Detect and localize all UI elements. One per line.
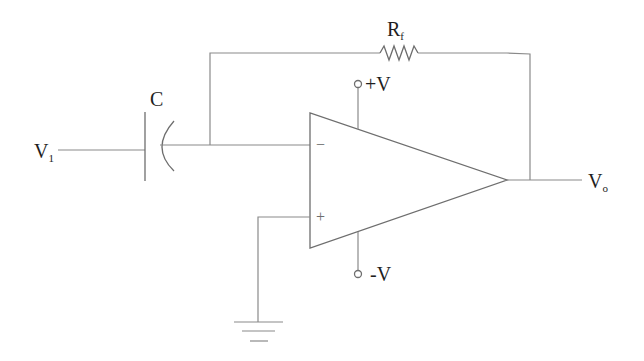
output-label: Vo <box>588 170 608 194</box>
op-amp-triangle <box>310 113 507 248</box>
feedback-resistor <box>380 46 418 60</box>
feedback-resistor-label: Rf <box>387 18 404 42</box>
circuit-diagram: V1 C Rf +V -V Vo − + <box>0 0 644 361</box>
non-inverting-input-sign: + <box>316 208 325 225</box>
capacitor-label: C <box>150 88 163 110</box>
negative-supply-label: -V <box>370 263 392 285</box>
positive-supply-label: +V <box>365 73 391 95</box>
inverting-input-sign: − <box>316 136 325 153</box>
ground-icon <box>234 322 283 341</box>
capacitor-plate-curved <box>162 121 174 171</box>
feedback-wire-right <box>418 53 530 180</box>
positive-supply-terminal-icon <box>355 81 362 88</box>
input-label: V1 <box>34 140 54 164</box>
non-inverting-input-wire <box>258 217 310 322</box>
negative-supply-terminal-icon <box>355 271 362 278</box>
feedback-wire-left <box>210 53 380 145</box>
capacitor <box>145 112 174 181</box>
